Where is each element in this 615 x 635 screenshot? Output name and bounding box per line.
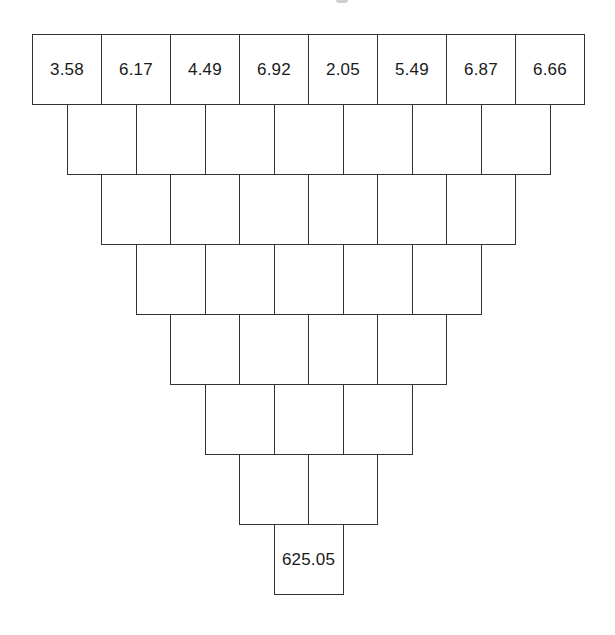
- number-pyramid: 3.586.174.496.922.055.496.876.66625.05: [0, 0, 615, 635]
- pyramid-cell-r3-c0: [136, 244, 206, 315]
- pyramid-cell-r0-c2: 4.49: [170, 34, 240, 105]
- pyramid-cell-r0-c4: 2.05: [308, 34, 378, 105]
- pyramid-cell-r4-c0: [170, 314, 240, 385]
- pyramid-cell-r1-c5: [412, 104, 482, 175]
- pyramid-cell-r5-c0: [205, 384, 275, 455]
- pyramid-cell-r3-c1: [205, 244, 275, 315]
- pyramid-cell-r1-c1: [136, 104, 206, 175]
- pyramid-cell-r1-c4: [343, 104, 413, 175]
- pyramid-cell-r0-c6: 6.87: [446, 34, 516, 105]
- pyramid-cell-r1-c0: [67, 104, 137, 175]
- pyramid-cell-r3-c2: [274, 244, 344, 315]
- pyramid-cell-r1-c3: [274, 104, 344, 175]
- pyramid-cell-r1-c2: [205, 104, 275, 175]
- pyramid-cell-r0-c3: 6.92: [239, 34, 309, 105]
- pyramid-cell-r4-c1: [239, 314, 309, 385]
- pyramid-cell-r3-c3: [343, 244, 413, 315]
- pyramid-cell-r7-c0: 625.05: [274, 524, 344, 595]
- pyramid-cell-r0-c0: 3.58: [32, 34, 102, 105]
- pyramid-cell-r6-c1: [308, 454, 378, 525]
- pyramid-cell-r4-c3: [377, 314, 447, 385]
- pyramid-cell-r2-c3: [308, 174, 378, 245]
- pyramid-cell-r5-c2: [343, 384, 413, 455]
- pyramid-cell-r5-c1: [274, 384, 344, 455]
- top-edge-artifact: [336, 0, 348, 3]
- pyramid-cell-r2-c0: [101, 174, 171, 245]
- pyramid-cell-r0-c1: 6.17: [101, 34, 171, 105]
- pyramid-cell-r2-c4: [377, 174, 447, 245]
- pyramid-cell-r2-c1: [170, 174, 240, 245]
- pyramid-cell-r0-c7: 6.66: [515, 34, 585, 105]
- pyramid-cell-r1-c6: [481, 104, 551, 175]
- pyramid-cell-r2-c5: [446, 174, 516, 245]
- pyramid-cell-r6-c0: [239, 454, 309, 525]
- pyramid-cell-r0-c5: 5.49: [377, 34, 447, 105]
- pyramid-cell-r2-c2: [239, 174, 309, 245]
- pyramid-cell-r3-c4: [412, 244, 482, 315]
- pyramid-cell-r4-c2: [308, 314, 378, 385]
